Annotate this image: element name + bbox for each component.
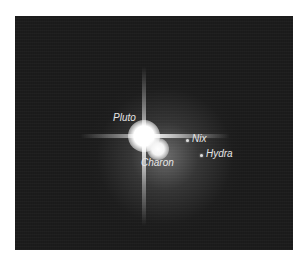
nix-body bbox=[186, 139, 189, 142]
telescope-image: Pluto Charon Nix Hydra bbox=[15, 16, 293, 250]
hydra-label: Hydra bbox=[206, 148, 233, 159]
charon-label: Charon bbox=[141, 157, 174, 168]
pluto-label: Pluto bbox=[113, 112, 136, 123]
hydra-body bbox=[200, 154, 203, 157]
nix-label: Nix bbox=[192, 133, 206, 144]
